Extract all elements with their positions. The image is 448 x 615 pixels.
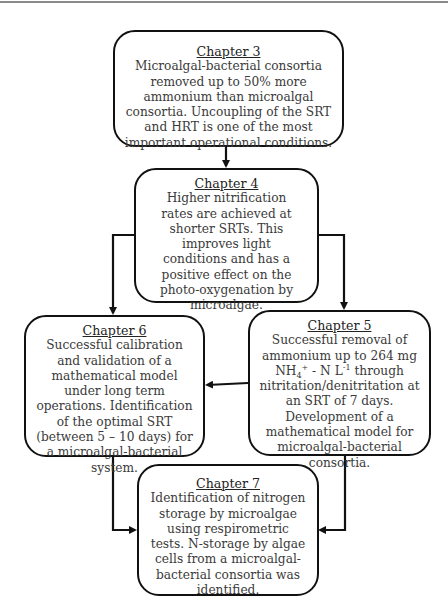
chapter-5-title: Chapter 5 [254, 318, 425, 333]
arrow-ch4-to-ch5 [318, 235, 344, 308]
chapter-4-box: Chapter 4 Higher nitrification rates are… [134, 168, 319, 303]
chapter-4-title: Chapter 4 [150, 176, 303, 191]
chapter-3-box: Chapter 3 Microalgal-bacterial consortia… [113, 30, 344, 147]
chapter-5-box: Chapter 5 Successful removal of ammonium… [248, 310, 431, 456]
chapter-6-text: Successful calibration and validation of… [34, 338, 195, 476]
chapter-6-title: Chapter 6 [34, 323, 195, 338]
chapter-7-box: Chapter 7 Identification of nitrogen sto… [137, 464, 319, 596]
arrow-ch4-to-ch6 [113, 235, 134, 313]
chapter-3-title: Chapter 3 [121, 44, 336, 59]
chapter-6-box: Chapter 6 Successful calibration and val… [24, 315, 205, 457]
chapter-5-text: Successful removal of ammonium up to 264… [254, 333, 425, 471]
chapter-7-title: Chapter 7 [149, 476, 307, 491]
arrow-ch5-to-ch6 [207, 383, 248, 385]
chapter-7-text: Identification of nitrogen storage by mi… [149, 491, 307, 598]
chapter-3-text: Microalgal-bacterial consortia removed u… [121, 59, 336, 151]
chapter-4-text: Higher nitrification rates are achieved … [150, 191, 303, 313]
